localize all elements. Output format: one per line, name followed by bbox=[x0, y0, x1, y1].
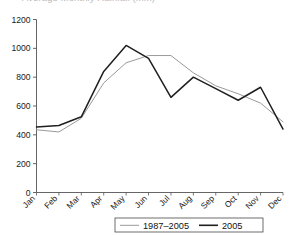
x-tick-label-group: Oct bbox=[222, 193, 239, 210]
x-tick-label: Mar bbox=[64, 193, 81, 210]
chart-canvas: 020040060080010001200JanFebMarAprMayJunJ… bbox=[0, 0, 290, 235]
y-tick-label: 200 bbox=[16, 159, 31, 169]
x-tick-label-group: Jan bbox=[20, 193, 37, 210]
x-tick-label: Apr bbox=[88, 193, 104, 209]
x-tick-label: Jul bbox=[157, 193, 172, 208]
x-tick-label: Jan bbox=[20, 193, 37, 210]
x-tick-label-group: Sep bbox=[199, 193, 217, 211]
y-tick-label: 400 bbox=[16, 130, 31, 140]
rainfall-line-chart: Average Monthly Rainfall (mm) 0200400600… bbox=[0, 0, 290, 235]
legend-label-2005: 2005 bbox=[222, 221, 242, 231]
series-line-2005 bbox=[37, 45, 284, 129]
x-tick-label-group: Jun bbox=[132, 193, 149, 210]
legend-label-mean: 1987–2005 bbox=[143, 221, 189, 231]
x-tick-label-group: Dec bbox=[266, 193, 284, 211]
y-tick-label: 1200 bbox=[11, 15, 30, 25]
x-tick-label: Jun bbox=[132, 193, 149, 210]
x-tick-label: Aug bbox=[176, 193, 194, 211]
x-tick-label: Dec bbox=[266, 193, 284, 211]
y-tick-label: 1000 bbox=[11, 43, 30, 53]
x-tick-label-group: Aug bbox=[176, 193, 194, 211]
x-tick-label: May bbox=[108, 193, 127, 212]
x-tick-label: Sep bbox=[199, 193, 217, 211]
x-tick-label: Oct bbox=[222, 193, 239, 210]
x-tick-label: Nov bbox=[243, 193, 261, 211]
y-tick-label: 800 bbox=[16, 72, 31, 82]
x-tick-label-group: Mar bbox=[64, 193, 81, 210]
x-tick-label-group: Apr bbox=[88, 193, 104, 209]
y-tick-label: 600 bbox=[16, 101, 31, 111]
x-tick-label-group: May bbox=[108, 193, 127, 212]
x-tick-label-group: Feb bbox=[42, 193, 60, 211]
x-tick-label-group: Jul bbox=[157, 193, 172, 208]
x-tick-label-group: Nov bbox=[243, 193, 261, 211]
x-tick-label: Feb bbox=[42, 193, 60, 211]
